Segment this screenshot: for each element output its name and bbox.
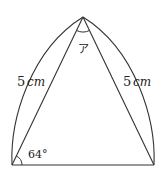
left-side-unit: cm [27,75,45,89]
geometry-diagram: 5 cm 5 cm 64° ア [0,0,162,172]
apex-angle-mark [77,31,90,32]
right-side-value: 5 [123,74,131,89]
right-side-unit: cm [133,75,151,89]
left-side [12,17,83,165]
base-angle-label: 64° [28,148,48,161]
left-side-value: 5 [17,74,25,89]
apex-angle-label: ア [78,43,89,56]
base-angle-mark [16,156,22,165]
right-side [83,17,154,165]
